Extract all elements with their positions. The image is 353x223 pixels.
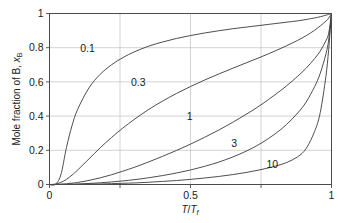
chart-figure: 00.51 00.20.40.60.81 0.10.31310 Mole fra… <box>0 0 353 223</box>
curve-label-10: 10 <box>266 158 278 170</box>
curve-labels: 0.10.31310 <box>80 42 278 170</box>
x-tick-label: 0 <box>47 189 53 201</box>
y-tick-label: 0.2 <box>29 144 44 156</box>
x-axis-title: T/Tf <box>182 204 200 217</box>
svg-text:T/Tf: T/Tf <box>182 204 200 217</box>
svg-text:Mole fraction of B, xB: Mole fraction of B, xB <box>11 52 24 145</box>
y-axis-tick-labels: 00.20.40.60.81 <box>29 7 44 190</box>
y-tick-label: 0.8 <box>29 41 44 53</box>
curve-label-3: 3 <box>231 137 237 149</box>
y-tick-label: 0.4 <box>29 110 44 122</box>
x-tick-label: 0.5 <box>183 189 198 201</box>
y-tick-label: 1 <box>38 7 44 19</box>
y-axis-title-text: Mole fraction of B, <box>11 62 22 145</box>
curve-label-0-3: 0.3 <box>131 76 146 88</box>
y-axis-title: Mole fraction of B, xB <box>11 52 24 145</box>
y-tick-label: 0 <box>38 178 44 190</box>
y-axis-title-subscript: B <box>15 52 24 57</box>
x-axis-title-subscript: f <box>197 208 200 217</box>
x-tick-label: 1 <box>329 189 335 201</box>
curve-label-1: 1 <box>187 110 193 122</box>
chart-canvas: 00.51 00.20.40.60.81 0.10.31310 Mole fra… <box>0 0 353 223</box>
x-axis-tick-labels: 00.51 <box>47 189 335 201</box>
x-axis-tickmarks <box>50 185 332 189</box>
vertical-gridlines <box>120 14 261 185</box>
y-axis-tickmarks <box>46 14 50 185</box>
curve-label-0-1: 0.1 <box>80 42 95 54</box>
y-tick-label: 0.6 <box>29 76 44 88</box>
